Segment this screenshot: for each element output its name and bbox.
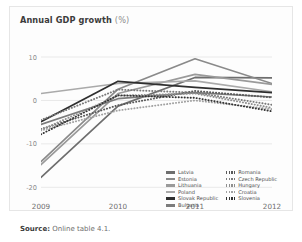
y-axis-tick-label: 0: [19, 97, 37, 105]
legend-swatch-icon: [166, 197, 175, 200]
legend-swatch-icon: [166, 191, 175, 194]
legend-item: Hungary: [226, 182, 277, 189]
x-axis-tick-label: 2010: [98, 202, 138, 211]
chart-legend: LatviaEstoniaLithuaniaPolandSlovak Repub…: [166, 169, 286, 209]
legend-item: Croatia: [226, 189, 277, 196]
legend-column-solid: LatviaEstoniaLithuaniaPolandSlovak Repub…: [166, 169, 218, 209]
y-axis-tick-label: -10: [19, 140, 37, 148]
legend-swatch-icon: [226, 197, 235, 200]
legend-swatch-icon: [166, 171, 175, 174]
legend-swatch-icon: [166, 184, 175, 187]
legend-label: Poland: [178, 189, 195, 196]
legend-item: Bulgaria: [166, 202, 218, 209]
legend-item: Czech Republic: [226, 176, 277, 183]
legend-swatch-icon: [166, 178, 175, 181]
legend-label: Hungary: [238, 182, 260, 189]
y-axis-tick-label: 10: [19, 54, 37, 62]
chart-title-text: Annual GDP growth: [20, 15, 112, 25]
x-axis-tick-label: 2009: [21, 202, 61, 211]
chart-title: Annual GDP growth (%): [20, 15, 129, 25]
series-line-lithuania: [41, 74, 272, 164]
legend-label: Bulgaria: [178, 202, 199, 209]
legend-label: Estonia: [178, 176, 197, 183]
legend-item: Estonia: [166, 176, 218, 183]
legend-label: Croatia: [238, 189, 256, 196]
legend-label: Romania: [238, 169, 260, 176]
legend-swatch-icon: [226, 178, 235, 181]
legend-label: Lithuania: [178, 182, 202, 189]
chart-figure: Annual GDP growth (%) 100-10-20 20092010…: [0, 0, 302, 242]
legend-label: Slovak Republic: [178, 195, 218, 202]
series-line-romania: [41, 91, 272, 129]
chart-title-unit: (%): [115, 15, 129, 25]
source-text: Online table 4.1.: [52, 225, 110, 233]
legend-item: Lithuania: [166, 182, 218, 189]
legend-column-dotted: RomaniaCzech RepublicHungaryCroatiaSlove…: [226, 169, 277, 209]
legend-item: Slovak Republic: [166, 195, 218, 202]
legend-label: Latvia: [178, 169, 194, 176]
legend-swatch-icon: [226, 184, 235, 187]
source-label: Source:: [20, 225, 50, 233]
legend-item: Poland: [166, 189, 218, 196]
series-line-hungary: [41, 94, 272, 130]
legend-item: Latvia: [166, 169, 218, 176]
y-axis-tick-label: -20: [19, 184, 37, 192]
legend-swatch-icon: [226, 171, 235, 174]
legend-swatch-icon: [226, 191, 235, 194]
series-line-latvia: [41, 77, 272, 177]
legend-swatch-icon: [166, 204, 175, 207]
source-note: Source: Online table 4.1.: [20, 225, 110, 233]
legend-item: Slovenia: [226, 195, 277, 202]
legend-label: Czech Republic: [238, 176, 277, 183]
legend-item: Romania: [226, 169, 277, 176]
legend-label: Slovenia: [238, 195, 260, 202]
